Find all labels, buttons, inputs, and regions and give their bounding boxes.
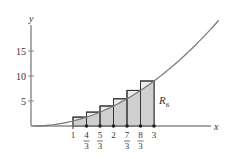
y-tick-label: 15 xyxy=(16,46,26,57)
x-tick-denominator: 3 xyxy=(98,141,103,151)
x-tick-label: 5 xyxy=(98,130,103,140)
x-tick-label: 4 xyxy=(84,130,89,140)
x-tick-label: 1 xyxy=(71,130,76,140)
x-tick-denominator: 3 xyxy=(138,141,143,151)
x-tick-label: 3 xyxy=(152,130,157,140)
x-axis-ticks: 14353273833 xyxy=(71,124,157,151)
y-tick-label: 5 xyxy=(21,96,26,107)
x-tick-denominator: 3 xyxy=(125,141,130,151)
partition-point xyxy=(98,124,102,128)
y-axis-label: y xyxy=(28,13,34,24)
region-label: R6 xyxy=(158,94,170,109)
partition-point xyxy=(152,124,156,128)
partition-point xyxy=(125,124,129,128)
x-axis-label: x xyxy=(213,121,219,132)
x-tick-label: 2 xyxy=(111,130,116,140)
partition-point xyxy=(112,124,116,128)
x-tick-label: 7 xyxy=(125,130,130,140)
x-tick-denominator: 3 xyxy=(84,141,89,151)
partition-point xyxy=(139,124,143,128)
region-label-subscript: 6 xyxy=(166,101,170,109)
x-tick-label: 8 xyxy=(138,130,143,140)
riemann-sum-figure: 51015 14353273833 y x R6 xyxy=(0,0,230,159)
y-tick-label: 10 xyxy=(16,71,26,82)
partition-point xyxy=(85,124,89,128)
